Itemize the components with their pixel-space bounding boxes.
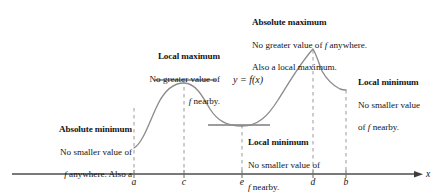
x-tick-label-e: e [236, 176, 248, 187]
annotation-local-minimum-middle: Local minimum No smaller value of f near… [248, 126, 368, 193]
annotation-local-minimum-right-line2: of f nearby. [358, 122, 440, 133]
annotation-local-minimum-middle-heading: Local minimum [248, 137, 368, 148]
annotation-absolute-maximum-line1-c: anywhere. [327, 40, 367, 50]
annotation-absolute-minimum-heading: Absolute minimum [8, 124, 132, 135]
x-axis-label: x [426, 168, 430, 179]
annotation-absolute-minimum: Absolute minimum No smaller value of f a… [8, 113, 132, 193]
x-tick-label-c: c [178, 176, 190, 187]
annotation-local-maximum-heading: Local maximum [108, 51, 220, 62]
annotation-absolute-minimum-line2: f anywhere. Also a [8, 169, 132, 180]
annotation-local-minimum-middle-line2: f nearby. [248, 182, 368, 193]
annotation-absolute-maximum-line1-a: No greater value of [252, 40, 325, 50]
annotation-local-minimum-middle-line2-rest: nearby. [251, 182, 280, 192]
annotation-absolute-minimum-line2-rest: anywhere. Also a [67, 169, 132, 179]
annotation-local-minimum-right-heading: Local minimum [358, 77, 440, 88]
axis-arrowhead [414, 171, 423, 177]
annotation-local-maximum-line1: No greater value of [108, 74, 220, 85]
extrema-figure: y = f(x) x a c e d b Absolute minimum No… [0, 0, 441, 193]
annotation-local-maximum-line2-rest: nearby. [191, 96, 220, 106]
annotation-local-minimum-right-line2-a: of [358, 122, 368, 132]
annotation-absolute-minimum-line1: No smaller value of [8, 147, 132, 158]
annotation-local-minimum-right: Local minimum No smaller value of f near… [358, 66, 440, 144]
annotation-absolute-maximum-line1: No greater value of f anywhere. [252, 40, 432, 51]
annotation-local-maximum-line2: f nearby. [108, 96, 220, 107]
annotation-local-maximum: Local maximum No greater value of f near… [108, 40, 220, 118]
annotation-absolute-maximum-heading: Absolute maximum [252, 17, 432, 28]
annotation-local-minimum-middle-line1: No smaller value of [248, 160, 368, 171]
annotation-local-minimum-right-line2-c: nearby. [370, 122, 399, 132]
annotation-local-minimum-right-line1: No smaller value [358, 100, 440, 111]
annotation-absolute-minimum-line3: local minimum. [8, 191, 132, 193]
